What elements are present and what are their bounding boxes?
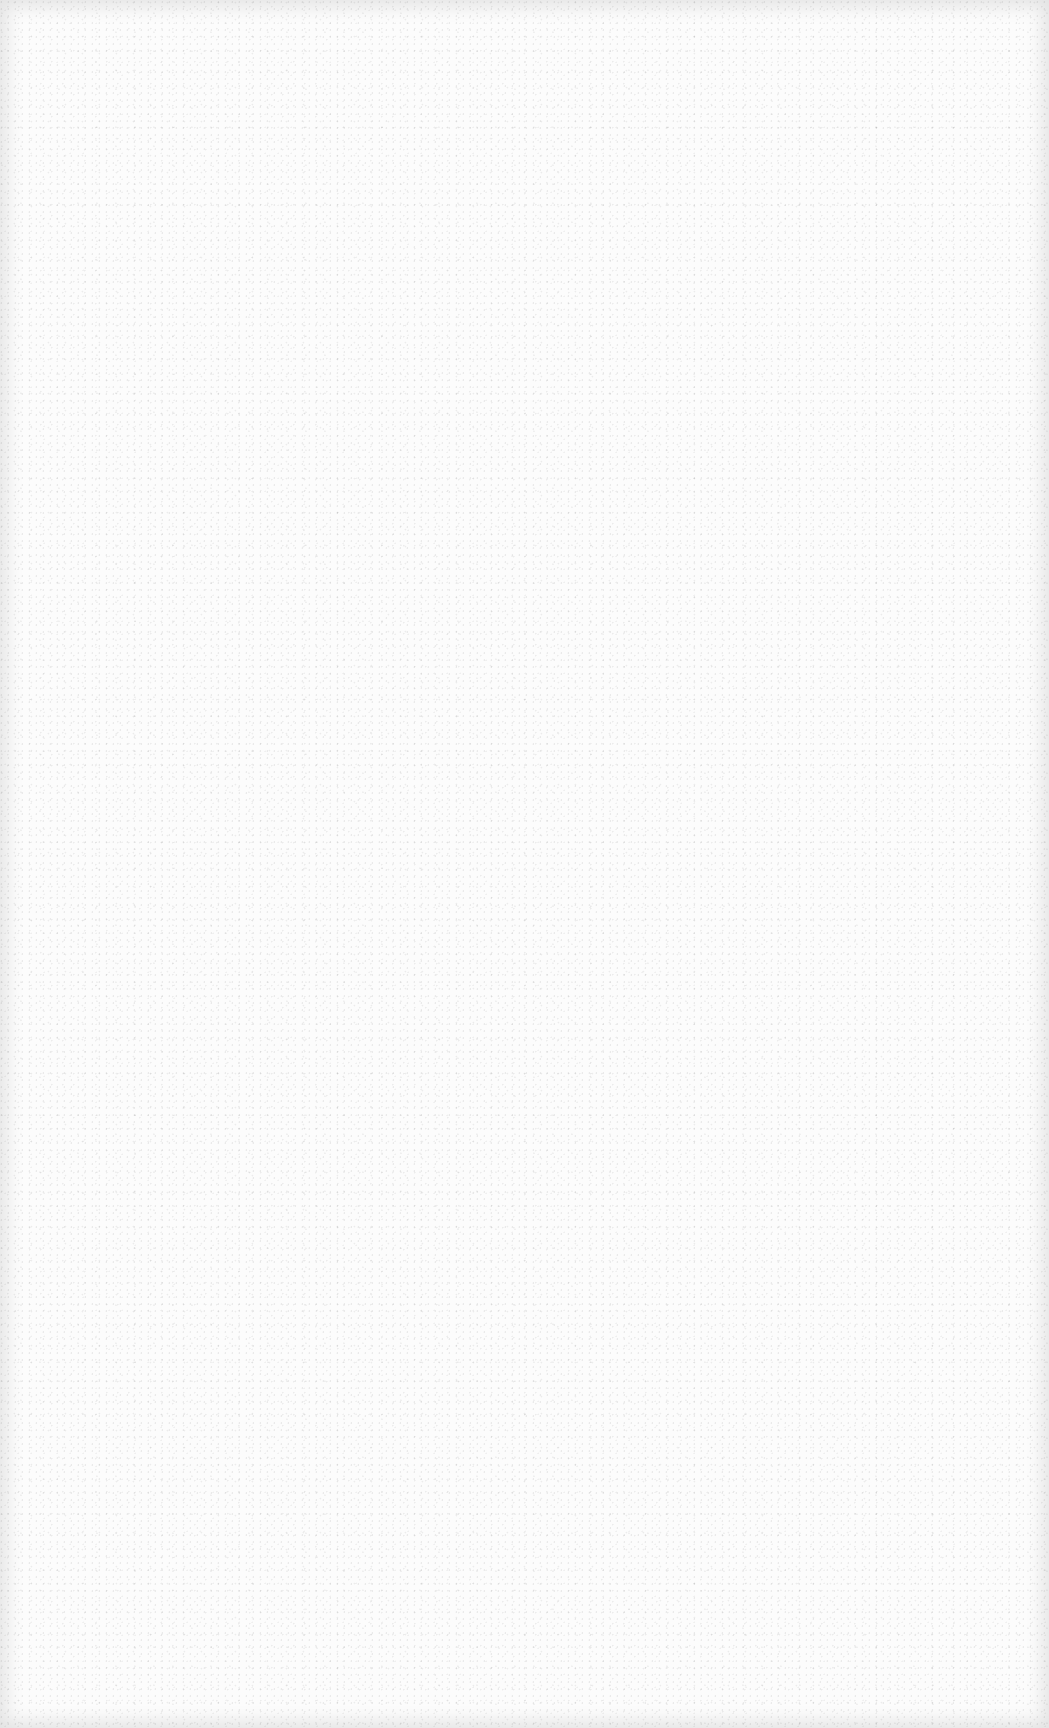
paper-texture <box>0 0 1049 1728</box>
blank-paper-page <box>0 0 1049 1728</box>
